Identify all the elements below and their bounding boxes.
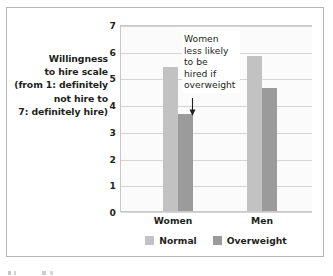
bar-men-normal[interactable] — [247, 56, 262, 211]
y-axis-tick: 1 — [100, 181, 116, 190]
figure-container: Willingness to hire scale (from 1: defin… — [0, 0, 333, 276]
y-axis-tick: 6 — [100, 48, 116, 57]
legend-label: Normal — [159, 236, 196, 245]
bar-women-overweight[interactable] — [178, 114, 193, 212]
annotation-callout: Women less likely to be hired if overwei… — [182, 31, 240, 93]
y-axis-tick: 2 — [100, 155, 116, 164]
annotation-line: overweight — [184, 79, 238, 91]
bar-women-normal[interactable] — [163, 67, 178, 211]
y-axis-tick: 7 — [100, 21, 116, 30]
x-axis-category-men: Men — [232, 216, 292, 225]
annotation-line: hired if — [184, 68, 238, 80]
legend-label: Overweight — [227, 236, 287, 245]
gridline — [121, 186, 312, 187]
bar-men-overweight[interactable] — [262, 88, 277, 211]
annotation-line: less likely — [184, 45, 238, 57]
legend-entry-normal[interactable]: Normal — [145, 236, 196, 245]
annotation-line: Women — [184, 33, 238, 45]
chart-legend: Normal Overweight — [120, 236, 312, 245]
y-axis-title-line: (from 1: definitely — [8, 78, 108, 91]
gridline — [121, 133, 312, 134]
y-axis-tick: 4 — [100, 101, 116, 110]
y-axis-tick: 5 — [100, 74, 116, 83]
legend-entry-overweight[interactable]: Overweight — [213, 236, 287, 245]
legend-swatch-icon — [213, 236, 222, 245]
baseline-axis — [121, 212, 312, 213]
y-axis-title-line: Willingness — [8, 52, 108, 65]
y-axis-tick-labels: 7 6 5 4 3 2 1 0 — [98, 25, 116, 212]
legend-swatch-icon — [145, 236, 154, 245]
annotation-line: to be — [184, 56, 238, 68]
y-axis-tick: 0 — [100, 208, 116, 217]
gridline — [121, 26, 312, 27]
x-axis-category-women: Women — [143, 216, 203, 225]
y-axis-title-line: 7: definitely hire) — [8, 105, 108, 118]
gridline — [121, 160, 312, 161]
gridline — [121, 106, 312, 107]
y-axis-title: Willingness to hire scale (from 1: defin… — [8, 52, 108, 118]
y-axis-title-line: not hire to — [8, 92, 108, 105]
page-edge-artifacts — [0, 268, 333, 276]
down-arrow-icon — [188, 98, 197, 116]
y-axis-title-line: to hire scale — [8, 65, 108, 78]
y-axis-tick: 3 — [100, 128, 116, 137]
